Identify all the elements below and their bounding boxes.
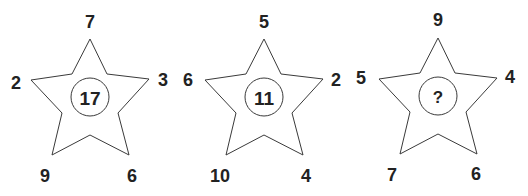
top-value: 5 — [259, 12, 269, 32]
right-value: 2 — [331, 70, 341, 90]
bottom-right-value: 6 — [471, 164, 481, 184]
star-2: 11 5 6 2 10 4 — [183, 12, 341, 186]
bottom-left-value: 10 — [210, 166, 230, 186]
top-value: 7 — [85, 12, 95, 32]
center-value: 11 — [254, 88, 275, 109]
bottom-right-value: 4 — [301, 166, 311, 186]
center-value: 17 — [79, 88, 100, 109]
star-3: ? 9 5 4 7 6 — [356, 10, 515, 185]
star-1: 17 7 2 3 9 6 — [11, 12, 168, 186]
bottom-right-value: 6 — [127, 166, 137, 186]
bottom-left-value: 9 — [40, 166, 50, 186]
right-value: 4 — [505, 67, 515, 87]
left-value: 5 — [356, 68, 366, 88]
right-value: 3 — [158, 70, 168, 90]
top-value: 9 — [433, 10, 443, 30]
center-value-unknown: ? — [433, 88, 443, 107]
left-value: 6 — [183, 70, 193, 90]
star-number-puzzle: 17 7 2 3 9 6 11 5 6 2 10 4 ? 9 5 4 7 6 — [0, 0, 528, 196]
bottom-left-value: 7 — [387, 165, 397, 185]
left-value: 2 — [11, 73, 21, 93]
